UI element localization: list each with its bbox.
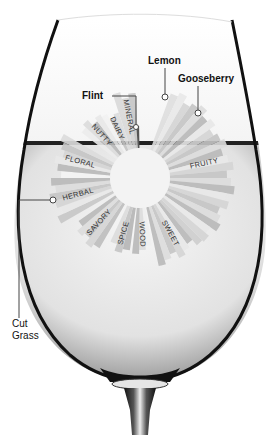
cut-grass-marker	[50, 197, 56, 203]
flint-marker	[134, 125, 139, 130]
gooseberry-marker	[195, 110, 201, 116]
callout-cut: Cut	[12, 318, 28, 329]
callout-gooseberry: Gooseberry	[178, 73, 235, 84]
wine-aroma-diagram: MINERALDAIRYNUTTYFLORALHERBALSAVORYSPICE…	[0, 0, 279, 435]
callout-flint: Flint	[82, 90, 104, 101]
lemon-marker	[162, 94, 168, 100]
wheel-center	[110, 148, 170, 208]
wheel-label-wood: WOOD	[138, 222, 148, 248]
glass-stem	[124, 388, 156, 435]
callout-grass: Grass	[12, 330, 39, 341]
callout-lemon: Lemon	[148, 55, 181, 66]
